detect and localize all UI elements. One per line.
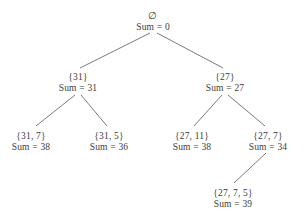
tree-edge-root-to-27 <box>157 33 223 68</box>
node-set-label: {31, 5} <box>90 131 129 142</box>
tree-node-root: ∅Sum = 0 <box>136 10 170 33</box>
node-set-label: ∅ <box>136 10 170 22</box>
tree-edge-n27_7-to-27_7_5 <box>234 153 266 183</box>
node-sum-label: Sum = 31 <box>59 83 98 94</box>
node-set-label: {27, 7} <box>249 131 288 142</box>
node-sum-label: Sum = 38 <box>12 142 51 153</box>
tree-node-n27_11: {27, 11}Sum = 38 <box>173 131 212 153</box>
node-set-label: {27, 7, 5} <box>213 188 253 199</box>
tree-node-n27_7: {27, 7}Sum = 34 <box>249 131 288 153</box>
tree-node-n31_5: {31, 5}Sum = 36 <box>90 131 129 153</box>
tree-edge-root-to-31 <box>80 33 150 68</box>
node-set-label: {31, 7} <box>12 131 51 142</box>
node-sum-label: Sum = 39 <box>213 199 253 210</box>
node-set-label: {31} <box>59 72 98 83</box>
tree-edge-n31-to-31_7 <box>36 95 75 126</box>
tree-edge-n27-to-27_7 <box>228 95 265 126</box>
node-set-label: {27, 11} <box>173 131 212 142</box>
node-sum-label: Sum = 0 <box>136 22 170 33</box>
tree-node-n31: {31}Sum = 31 <box>59 72 98 94</box>
tree-node-n27_7_5: {27, 7, 5}Sum = 39 <box>213 188 253 210</box>
tree-edge-n31-to-31_5 <box>81 95 107 126</box>
node-sum-label: Sum = 36 <box>90 142 129 153</box>
node-sum-label: Sum = 27 <box>206 83 245 94</box>
node-sum-label: Sum = 38 <box>173 142 212 153</box>
node-sum-label: Sum = 34 <box>249 142 288 153</box>
tree-node-n31_7: {31, 7}Sum = 38 <box>12 131 51 153</box>
tree-node-n27: {27}Sum = 27 <box>206 72 245 94</box>
tree-edge-n27-to-27_11 <box>194 95 222 126</box>
node-set-label: {27} <box>206 72 245 83</box>
